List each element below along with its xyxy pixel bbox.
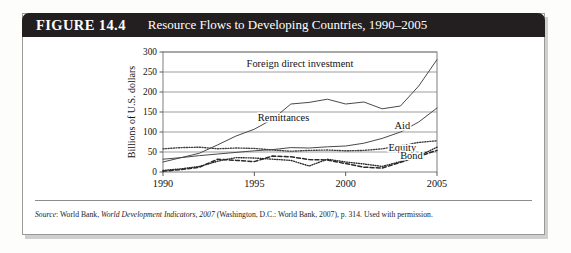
x-tick-label: 1990 bbox=[153, 178, 173, 189]
figure-page: FIGURE 14.4 Resource Flows to Developing… bbox=[0, 0, 571, 253]
chart-container: 0501001502002503001990199520002005Billio… bbox=[23, 37, 544, 195]
source-publisher: World Bank, bbox=[60, 210, 101, 219]
y-tick-label: 300 bbox=[143, 47, 157, 57]
source-prefix: Source bbox=[35, 210, 56, 219]
y-tick-label: 0 bbox=[152, 167, 157, 177]
y-tick-label: 100 bbox=[143, 127, 157, 137]
figure-header-band: FIGURE 14.4 Resource Flows to Developing… bbox=[22, 13, 545, 37]
source-rest: (Washington, D.C.: World Bank, 2007), p.… bbox=[215, 210, 433, 219]
series-annotation-remittances: Remittances bbox=[258, 112, 309, 123]
source-title-italic: World Development Indicators, 2007 bbox=[101, 210, 215, 219]
y-axis-label: Billions of U.S. dollars bbox=[126, 66, 137, 159]
figure-title: Resource Flows to Developing Countries, … bbox=[148, 17, 427, 33]
figure-number-label: FIGURE 14.4 bbox=[36, 17, 126, 34]
source-note: Source: World Bank, World Development In… bbox=[35, 209, 535, 220]
y-tick-label: 150 bbox=[143, 107, 157, 117]
line-chart: 0501001502002503001990199520002005Billio… bbox=[23, 37, 544, 195]
series-annotation-foreign-direct-investment: Foreign direct investment bbox=[247, 58, 354, 69]
x-tick-label: 1995 bbox=[244, 178, 264, 189]
y-tick-label: 50 bbox=[148, 147, 158, 157]
y-tick-label: 200 bbox=[143, 87, 157, 97]
x-tick-label: 2000 bbox=[335, 178, 355, 189]
series-annotation-aid: Aid bbox=[394, 120, 410, 131]
source-divider bbox=[35, 200, 532, 201]
x-tick-label: 2005 bbox=[427, 178, 447, 189]
figure-body: 0501001502002503001990199520002005Billio… bbox=[23, 37, 544, 234]
y-tick-label: 250 bbox=[143, 67, 157, 77]
series-annotation-bond: Bond bbox=[400, 150, 423, 161]
